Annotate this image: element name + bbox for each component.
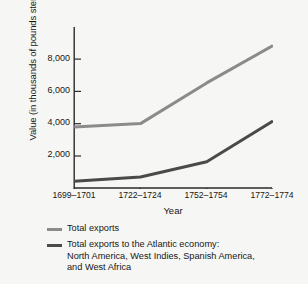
x-tick-1752-1754: 1752–1754 [172, 190, 240, 200]
y-tick-4000: 4,000 [30, 117, 70, 127]
y-tick-2000: 2,000 [30, 149, 70, 159]
y-tick-6000: 6,000 [30, 85, 70, 95]
legend-item-total-exports: Total exports [47, 223, 302, 234]
legend-swatch-atlantic-exports [47, 244, 62, 247]
x-axis-tick-labels: 1699–1701 1722–1724 1752–1754 1772–1774 [58, 190, 302, 204]
plot-area [73, 27, 273, 189]
legend-label-atlantic-line1: Total exports to the Atlantic economy: [67, 239, 255, 250]
chart-svg [73, 27, 273, 189]
legend-label-total-exports: Total exports [67, 223, 119, 234]
legend-swatch-total-exports [47, 228, 62, 231]
legend-label-atlantic-line2: North America, West Indies, Spanish Amer… [67, 251, 255, 262]
line-total-exports [74, 46, 273, 127]
x-tick-1722-1724: 1722–1724 [106, 190, 174, 200]
x-tick-1699-1701: 1699–1701 [40, 190, 108, 200]
chart-figure: Value (in thousands of pounds sterling) … [0, 0, 308, 284]
legend-label-total-exports-line1: Total exports [67, 223, 119, 234]
x-axis-title: Year [73, 205, 273, 216]
x-tick-1772-1774: 1772–1774 [238, 190, 306, 200]
chart-legend: Total exports Total exports to the Atlan… [47, 223, 302, 279]
legend-item-atlantic-exports: Total exports to the Atlantic economy: N… [47, 239, 302, 273]
line-atlantic-exports [74, 121, 273, 181]
y-tick-marks [74, 59, 81, 156]
legend-label-atlantic-line3: and West Africa [67, 262, 255, 273]
y-tick-8000: 8,000 [30, 53, 70, 63]
legend-label-atlantic-exports: Total exports to the Atlantic economy: N… [67, 239, 255, 273]
axis-spines [74, 27, 272, 188]
